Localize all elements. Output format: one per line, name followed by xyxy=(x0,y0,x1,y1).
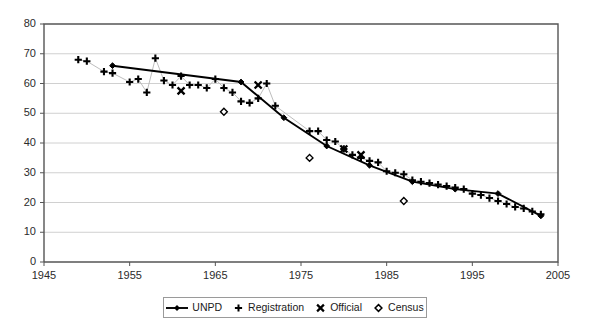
y-axis-tick-label: 0 xyxy=(4,256,36,267)
chart-legend: UNPDRegistrationOfficialCensus xyxy=(163,297,427,318)
unpd-marker xyxy=(110,63,116,69)
registration-marker xyxy=(246,99,253,106)
registration-marker xyxy=(503,200,510,207)
legend-item-label: UNPD xyxy=(192,302,222,313)
legend-diamond-open-icon xyxy=(375,304,382,311)
legend-item-census[interactable]: Census xyxy=(373,302,424,314)
legend-diamond-filled-icon xyxy=(174,305,180,311)
official-marker xyxy=(255,81,262,88)
registration-marker xyxy=(83,58,90,65)
y-axis-tick-label: 80 xyxy=(4,18,36,29)
y-axis-tick-label: 20 xyxy=(4,197,36,208)
registration-marker xyxy=(529,208,536,215)
y-axis-tick-label: 40 xyxy=(4,137,36,148)
census-marker xyxy=(400,198,407,205)
legend-marker-diamond-open xyxy=(373,302,384,314)
legend-item-label: Official xyxy=(330,302,362,313)
x-axis-tick-label: 2005 xyxy=(536,270,580,281)
x-axis-tick-label: 1955 xyxy=(108,270,152,281)
registration-marker xyxy=(255,95,262,102)
series-census xyxy=(221,108,408,204)
series-official xyxy=(178,81,365,158)
census-marker xyxy=(306,154,313,161)
y-axis-tick-label: 70 xyxy=(4,48,36,59)
legend-item-label: Census xyxy=(388,302,424,313)
chart-container: 80706050403020100 1945195519651975198519… xyxy=(0,0,589,330)
y-axis-tick-label: 10 xyxy=(4,226,36,237)
x-axis-tick-label: 1975 xyxy=(279,270,323,281)
x-axis-tick-label: 1985 xyxy=(365,270,409,281)
legend-marker-line-diamond xyxy=(166,302,188,314)
x-axis-tick-label: 1945 xyxy=(22,270,66,281)
registration-marker xyxy=(486,194,493,201)
legend-marker-plus xyxy=(233,302,244,314)
series-registration xyxy=(75,55,545,218)
registration-marker xyxy=(494,197,501,204)
registration-marker xyxy=(126,78,133,85)
registration-marker xyxy=(75,56,82,63)
x-axis-tick-label: 1965 xyxy=(193,270,237,281)
legend-item-official[interactable]: Official xyxy=(315,302,362,314)
registration-marker xyxy=(195,81,202,88)
x-axis-tick-label: 1995 xyxy=(450,270,494,281)
registration-marker xyxy=(109,69,116,76)
official-marker xyxy=(178,87,185,94)
legend-item-registration[interactable]: Registration xyxy=(233,302,304,314)
legend-item-label: Registration xyxy=(248,302,304,313)
y-axis-tick-label: 60 xyxy=(4,78,36,89)
registration-marker xyxy=(143,89,150,96)
registration-marker xyxy=(263,80,270,87)
registration-marker xyxy=(100,68,107,75)
legend-plus-icon xyxy=(235,304,242,311)
census-marker xyxy=(221,108,228,115)
y-axis-tick-label: 30 xyxy=(4,167,36,178)
registration-marker xyxy=(135,75,142,82)
legend-cross-icon xyxy=(317,304,324,311)
legend-item-unpd[interactable]: UNPD xyxy=(166,302,222,314)
registration-marker xyxy=(460,186,467,193)
y-axis-tick-label: 50 xyxy=(4,107,36,118)
legend-marker-cross xyxy=(315,302,326,314)
registration-marker xyxy=(152,55,159,62)
